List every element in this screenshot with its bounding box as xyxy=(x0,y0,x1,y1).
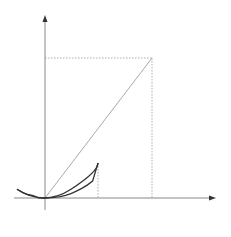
y-axis xyxy=(43,15,48,210)
parabola-polyline xyxy=(17,163,98,198)
parabola-curve xyxy=(17,163,98,198)
y-axis-arrow-icon xyxy=(43,15,48,22)
x-axis-arrow-icon xyxy=(209,196,216,201)
parabola-diagram xyxy=(0,0,231,237)
diagram-svg xyxy=(0,0,231,237)
chord-OA xyxy=(45,58,152,198)
